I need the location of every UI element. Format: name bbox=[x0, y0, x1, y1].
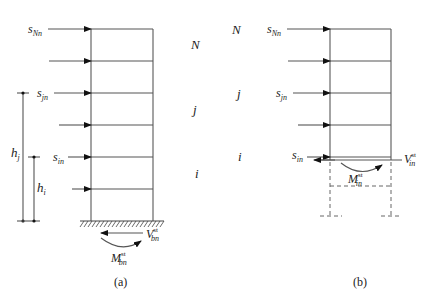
story-moment-label: Mstin bbox=[347, 171, 363, 188]
dimension-label-hi: hi bbox=[37, 180, 46, 197]
floor-beams bbox=[330, 29, 391, 157]
caption-b: (b) bbox=[353, 275, 367, 289]
level-label-i: i bbox=[238, 149, 242, 164]
force-label-s-Nn: sNn bbox=[28, 22, 42, 38]
panel-b: sNn sjn sin N j i Vstin Mstin (b) bbox=[231, 22, 416, 289]
floor-beams bbox=[91, 29, 153, 189]
force-label-s-in: sin bbox=[53, 150, 64, 166]
moment-arc-icon bbox=[101, 238, 141, 247]
lateral-force-arrows bbox=[287, 29, 330, 157]
dimension-label-hj: hj bbox=[11, 145, 21, 162]
caption-a: (a) bbox=[114, 275, 127, 289]
level-label-j: j bbox=[235, 86, 241, 101]
base-shear-label: Vstbn bbox=[146, 226, 159, 243]
force-label-s-in: sin bbox=[292, 148, 303, 164]
force-label-s-Nn: sNn bbox=[267, 22, 281, 38]
level-label-N: N bbox=[190, 37, 201, 52]
lateral-force-arrows bbox=[48, 29, 91, 189]
force-label-s-jn: sjn bbox=[37, 86, 48, 102]
story-shear-label: Vstin bbox=[404, 151, 416, 168]
level-label-j: j bbox=[191, 102, 197, 117]
panel-a: sNn sjn sin N j i hj hi bbox=[11, 22, 201, 289]
shear-building-diagram: sNn sjn sin N j i hj hi bbox=[0, 0, 430, 297]
force-label-s-jn: sjn bbox=[276, 86, 287, 102]
base-moment-label: Mstbn bbox=[110, 250, 127, 267]
level-label-i: i bbox=[195, 166, 199, 181]
level-label-N: N bbox=[231, 22, 242, 37]
